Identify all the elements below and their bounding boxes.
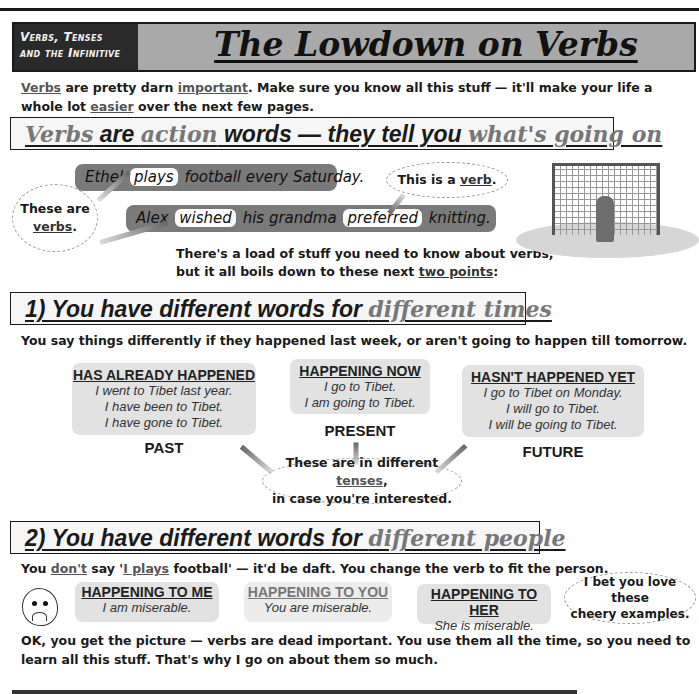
conclusion-paragraph: OK, you get the picture — verbs are dead… [21,631,691,669]
heading-action-words: Verbs are action words — they tell you w… [10,117,614,150]
tense-box-future: HASN'T HAPPENED YET I go to Tibet on Mon… [462,365,644,437]
section-tag-line1: Verbs, Tenses [20,29,138,45]
heading-different-times: 1) You have different words for differen… [10,292,526,325]
tense-label-future: FUTURE [462,443,644,460]
person-box-me: HAPPENING TO ME I am miserable. [75,582,219,622]
person-box-you: HAPPENING TO YOU You are miserable. [244,582,392,622]
intro-paragraph: Verbs are pretty darn important. Make su… [21,78,691,116]
callout-cheery-examples: I bet you love thesecheery examples. [564,572,696,624]
section-tag-line2: and the Infinitive [20,45,138,61]
goalkeeper-illustration [596,196,614,242]
verb-highlight: preferred [343,209,422,227]
page-header: Verbs, Tenses and the Infinitive The Low… [12,22,696,72]
tense-box-past: HAS ALREADY HAPPENED I went to Tibet las… [72,363,256,435]
example-sentence-2: Alex wished his grandma preferred knitti… [126,205,496,232]
intro-word-important: important [178,80,248,95]
person-box-her: HAPPENING TO HER She is miserable. [417,584,551,624]
times-description: You say things differently if they happe… [21,333,687,348]
heading-different-people: 2) You have different words for differen… [10,521,540,554]
verb-highlight: plays [130,168,178,186]
tense-label-past: PAST [72,439,256,456]
intro-word-easier: easier [90,99,133,114]
callout-this-is-a-verb: This is a verb. [386,162,508,198]
callout-tenses: These are in different tenses,in case yo… [262,458,462,504]
intro-word-verbs: Verbs [21,80,61,95]
people-description: You don't say 'I plays football' — it'd … [21,561,608,576]
verb-highlight: wished [175,209,236,227]
callout-these-are-verbs: These areverbs. [12,184,98,252]
tense-label-present: PRESENT [290,422,430,439]
tense-box-present: HAPPENING NOW I go to Tibet. I am going … [290,359,430,414]
page-title: The Lowdown on Verbs [214,25,638,64]
sad-face-icon [22,588,58,626]
top-rule [0,8,699,11]
two-points-text: There's a load of stuff you need to know… [176,245,554,281]
bottom-rule [12,690,577,694]
section-tag: Verbs, Tenses and the Infinitive [14,24,138,70]
